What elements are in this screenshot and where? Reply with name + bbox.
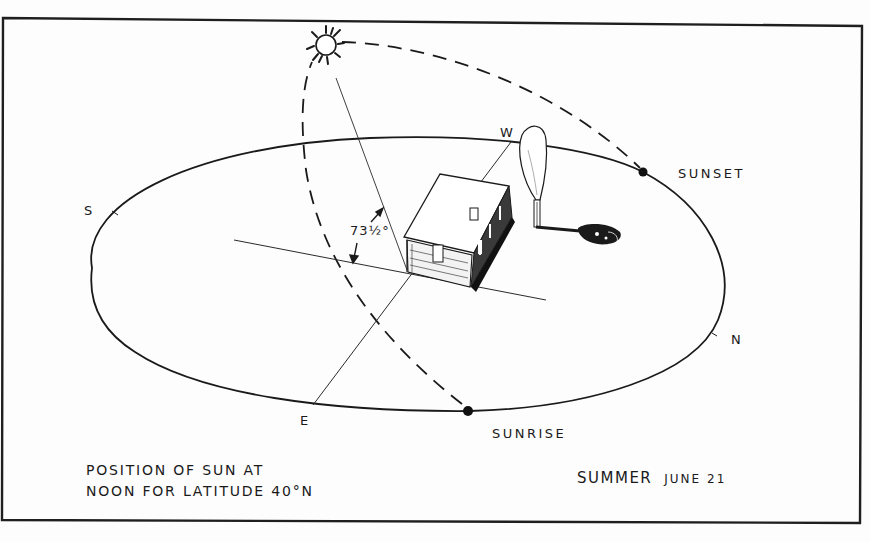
sunrise-label: SUNRISE [492, 427, 566, 440]
season-label: SUMMERJUNE 21 [577, 468, 726, 487]
sun-icon [307, 26, 344, 64]
direction-label-west: W [500, 126, 513, 139]
north-tick [712, 333, 717, 336]
direction-label-east: E [300, 414, 308, 427]
tree-shadow [536, 224, 621, 244]
diagram-page: S W E N SUNSET SUNRISE 73½° POSITION OF … [0, 0, 870, 542]
sunset-dot [639, 168, 648, 177]
horizon-ellipse [91, 137, 724, 411]
season-date: JUNE 21 [664, 472, 726, 486]
figure-caption: POSITION OF SUN AT NOON FOR LATITUDE 40°… [86, 460, 314, 502]
direction-label-north: N [731, 333, 741, 346]
sunrise-dot [463, 406, 473, 416]
angle-label: 73½° [350, 224, 390, 237]
sun-ray-line [336, 78, 407, 270]
sunset-label: SUNSET [678, 167, 745, 180]
caption-line-1: POSITION OF SUN AT [86, 460, 314, 481]
season-name: SUMMER [577, 469, 652, 487]
direction-label-south: S [84, 204, 92, 217]
sun-arc-dashed-upper [342, 42, 640, 168]
tree-icon [520, 126, 547, 227]
caption-line-2: NOON FOR LATITUDE 40°N [86, 481, 314, 502]
house-icon [404, 174, 515, 292]
